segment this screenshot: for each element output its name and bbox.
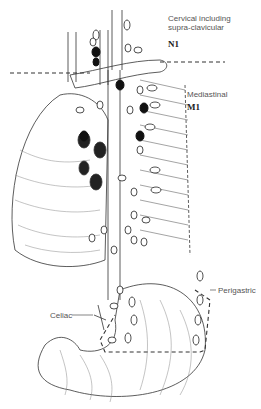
- cervical-label-line1: Cervical including: [168, 14, 231, 23]
- celiac-label: Celiac: [50, 311, 72, 320]
- m1-code: M1: [187, 102, 200, 112]
- n1-code: N1: [168, 39, 179, 49]
- cervical-label-line2: supra-clavicular: [168, 23, 224, 32]
- esophagus-stomach-illustration: [0, 0, 261, 409]
- mediastinal-label: Mediastinal: [187, 90, 227, 99]
- perigastric-label: Perigastric: [218, 286, 256, 295]
- anatomical-diagram: Cervical including supra-clavicular N1 M…: [0, 0, 261, 409]
